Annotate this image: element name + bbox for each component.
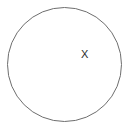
point-label-x: X [81,49,88,60]
circle-figure [0,0,134,132]
diagram-canvas: X [0,0,134,132]
circle-outline [8,8,122,122]
